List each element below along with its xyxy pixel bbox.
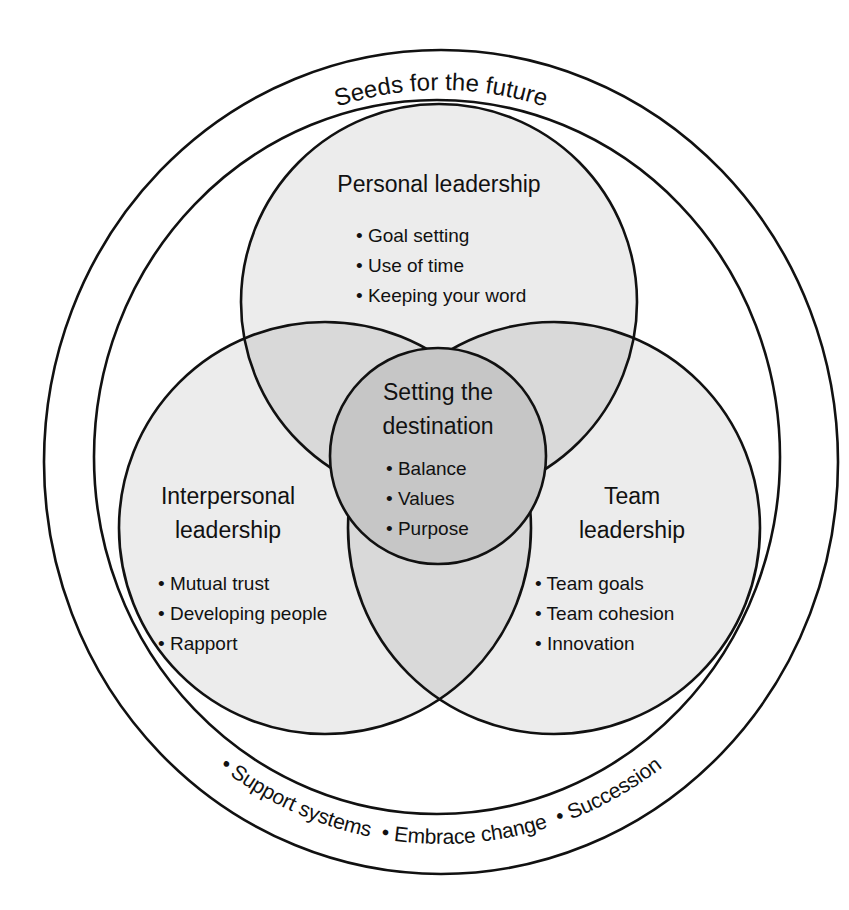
center-title-line1: Setting the	[383, 379, 493, 405]
interpersonal-item: • Rapport	[158, 633, 238, 654]
center-title-line2: destination	[382, 413, 493, 439]
interpersonal-item: • Mutual trust	[158, 573, 270, 594]
center-item: • Purpose	[386, 518, 469, 539]
personal-item: • Use of time	[356, 255, 464, 276]
leadership-venn-diagram: Seeds for the future • Support systems •…	[0, 0, 849, 910]
personal-item: • Goal setting	[356, 225, 469, 246]
team-title-line2: leadership	[579, 517, 685, 543]
personal-leadership-title: Personal leadership	[337, 171, 540, 197]
team-item: • Team goals	[535, 573, 644, 594]
ring-items: • Support systems • Embrace change • Suc…	[217, 752, 665, 848]
team-title-line1: Team	[604, 483, 660, 509]
center-item: • Values	[386, 488, 455, 509]
personal-item: • Keeping your word	[356, 285, 526, 306]
team-item: • Team cohesion	[535, 603, 674, 624]
center-item: • Balance	[386, 458, 467, 479]
interpersonal-item: • Developing people	[158, 603, 327, 624]
team-item: • Innovation	[535, 633, 635, 654]
interpersonal-title-line2: leadership	[175, 517, 281, 543]
interpersonal-title-line1: Interpersonal	[161, 483, 295, 509]
